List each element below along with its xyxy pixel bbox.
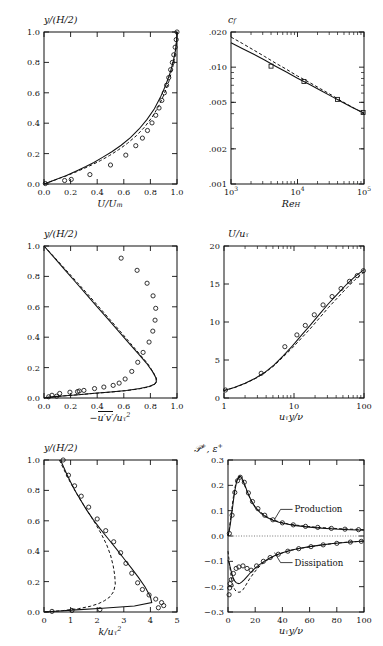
panel-budget: 𝒫+, ε+ 020406080100−0.3−0.2−0.10.00.10.2… (196, 442, 376, 632)
svg-text:0.0: 0.0 (27, 393, 40, 403)
panel-6-y-axis-title: 𝒫+, ε+ (194, 442, 223, 455)
svg-text:0.6: 0.6 (27, 516, 40, 526)
svg-text:.005: .005 (209, 97, 227, 107)
svg-text:−0.2: −0.2 (204, 582, 224, 592)
svg-text:0.8: 0.8 (27, 271, 40, 281)
svg-text:0.0: 0.0 (211, 531, 224, 541)
svg-text:0.6: 0.6 (27, 302, 40, 312)
svg-text:0.8: 0.8 (27, 57, 40, 67)
panel-4-plot: 11010005101520 (196, 228, 376, 418)
figure-page: y/(H/2) 0.00.20.40.60.81.00.00.20.40.60.… (0, 0, 383, 646)
svg-text:100: 100 (356, 401, 372, 411)
svg-text:0.2: 0.2 (27, 149, 40, 159)
svg-text:−0.1: −0.1 (204, 556, 224, 566)
svg-text:4: 4 (148, 615, 153, 625)
svg-text:0.4: 0.4 (27, 118, 40, 128)
panel-2-y-axis-title: cf (228, 14, 236, 25)
svg-text:Production: Production (295, 504, 343, 514)
panel-6-x-axis-title: uτy/ν (216, 625, 366, 636)
svg-text:0.0: 0.0 (27, 179, 40, 189)
svg-text:104: 104 (290, 185, 304, 196)
svg-text:0: 0 (225, 615, 230, 625)
svg-text:0.4: 0.4 (91, 401, 104, 411)
svg-text:0: 0 (215, 393, 220, 403)
svg-text:−0.3: −0.3 (204, 607, 224, 617)
svg-text:20: 20 (250, 615, 260, 625)
svg-text:0.6: 0.6 (27, 88, 40, 98)
svg-text:0.8: 0.8 (144, 401, 157, 411)
svg-text:0.0: 0.0 (27, 607, 40, 617)
svg-text:1.0: 1.0 (27, 241, 40, 251)
svg-text:0.6: 0.6 (117, 401, 130, 411)
svg-text:5: 5 (174, 615, 179, 625)
svg-text:0.3: 0.3 (211, 455, 224, 465)
svg-text:3: 3 (121, 615, 126, 625)
svg-text:1.0: 1.0 (170, 401, 183, 411)
svg-text:.002: .002 (209, 144, 227, 154)
panel-4-y-axis-title: U/uτ (228, 228, 249, 239)
svg-text:1.0: 1.0 (27, 455, 40, 465)
svg-text:40: 40 (277, 615, 287, 625)
svg-text:.020: .020 (209, 27, 227, 37)
svg-text:0.4: 0.4 (27, 332, 40, 342)
svg-text:0.2: 0.2 (64, 187, 77, 197)
panel-3-plot: 0.00.20.40.60.81.00.00.20.40.60.81.0 (10, 228, 185, 418)
panel-2-x-axis-title: ReH (216, 198, 366, 209)
panel-3-x-axis-title: −u′v′/uτ2 (40, 411, 180, 423)
svg-text:0.8: 0.8 (27, 485, 40, 495)
svg-text:0.6: 0.6 (117, 187, 130, 197)
panel-5-plot: 0123450.00.20.40.60.81.0 (10, 442, 185, 632)
svg-text:0.8: 0.8 (144, 187, 157, 197)
svg-text:10: 10 (210, 317, 220, 327)
svg-text:1.0: 1.0 (27, 27, 40, 37)
panel-shear-stress: y/(H/2) 0.00.20.40.60.81.00.00.20.40.60.… (10, 228, 185, 418)
panel-1-y-axis-title: y/(H/2) (44, 14, 78, 25)
svg-text:105: 105 (357, 185, 371, 196)
svg-text:10: 10 (289, 401, 299, 411)
panel-3-y-axis-title: y/(H/2) (44, 228, 78, 239)
svg-text:0.1: 0.1 (211, 506, 224, 516)
svg-text:.010: .010 (209, 62, 227, 72)
panel-log-law: U/uτ 11010005101520 uτy/ν (196, 228, 376, 418)
panel-1-x-axis-title: U/Um (40, 198, 180, 209)
panel-5-x-axis-title: k/uτ2 (40, 625, 180, 637)
svg-text:2: 2 (95, 615, 100, 625)
svg-text:0.4: 0.4 (27, 546, 40, 556)
svg-text:1: 1 (68, 615, 73, 625)
svg-text:60: 60 (304, 615, 314, 625)
svg-text:0.2: 0.2 (64, 401, 77, 411)
panel-4-x-axis-title: uτy/ν (216, 411, 366, 422)
svg-text:100: 100 (356, 615, 372, 625)
svg-text:0: 0 (41, 615, 46, 625)
svg-text:0.2: 0.2 (27, 577, 40, 587)
panel-2-plot: 103104105.001.002.005.010.020 (196, 14, 376, 204)
panel-6-plot: 020406080100−0.3−0.2−0.10.00.10.20.3Prod… (196, 442, 376, 632)
svg-text:0.2: 0.2 (27, 363, 40, 373)
svg-text:0.4: 0.4 (91, 187, 104, 197)
svg-text:Dissipation: Dissipation (295, 558, 344, 568)
panel-kinetic-energy: y/(H/2) 0123450.00.20.40.60.81.0 k/uτ2 (10, 442, 185, 632)
svg-text:15: 15 (210, 279, 220, 289)
panel-1-plot: 0.00.20.40.60.81.00.00.20.40.60.81.0 (10, 14, 185, 204)
svg-text:1: 1 (221, 401, 226, 411)
svg-text:.001: .001 (209, 179, 227, 189)
svg-text:0.2: 0.2 (211, 480, 224, 490)
svg-text:20: 20 (210, 241, 220, 251)
panel-5-y-axis-title: y/(H/2) (44, 442, 78, 453)
svg-text:80: 80 (332, 615, 342, 625)
panel-mean-velocity: y/(H/2) 0.00.20.40.60.81.00.00.20.40.60.… (10, 14, 185, 204)
svg-text:1.0: 1.0 (170, 187, 183, 197)
panel-skin-friction: cf 103104105.001.002.005.010.020 ReH (196, 14, 376, 204)
svg-text:5: 5 (215, 355, 220, 365)
